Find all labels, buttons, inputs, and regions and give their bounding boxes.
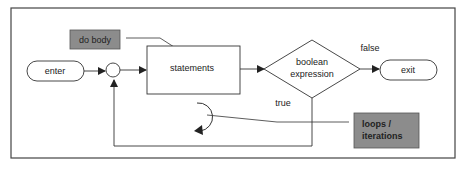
true-label: true xyxy=(275,98,291,108)
condition-label-line2: expression xyxy=(290,69,334,79)
enter-label: enter xyxy=(45,66,66,76)
loops-label-line1: loops / xyxy=(362,119,391,129)
merge-junction xyxy=(106,63,120,77)
false-label: false xyxy=(360,43,379,53)
flowchart-diagram: do body enter statements boolean express… xyxy=(0,0,466,169)
exit-label: exit xyxy=(401,65,416,75)
loops-label-line2: iterations xyxy=(362,131,403,141)
statements-label: statements xyxy=(170,63,215,73)
do-body-label: do body xyxy=(79,35,112,45)
loop-icon xyxy=(197,103,213,131)
loop-arrowhead xyxy=(194,125,203,135)
condition-label-line1: boolean xyxy=(296,57,328,67)
loops-pointer xyxy=(207,115,349,122)
